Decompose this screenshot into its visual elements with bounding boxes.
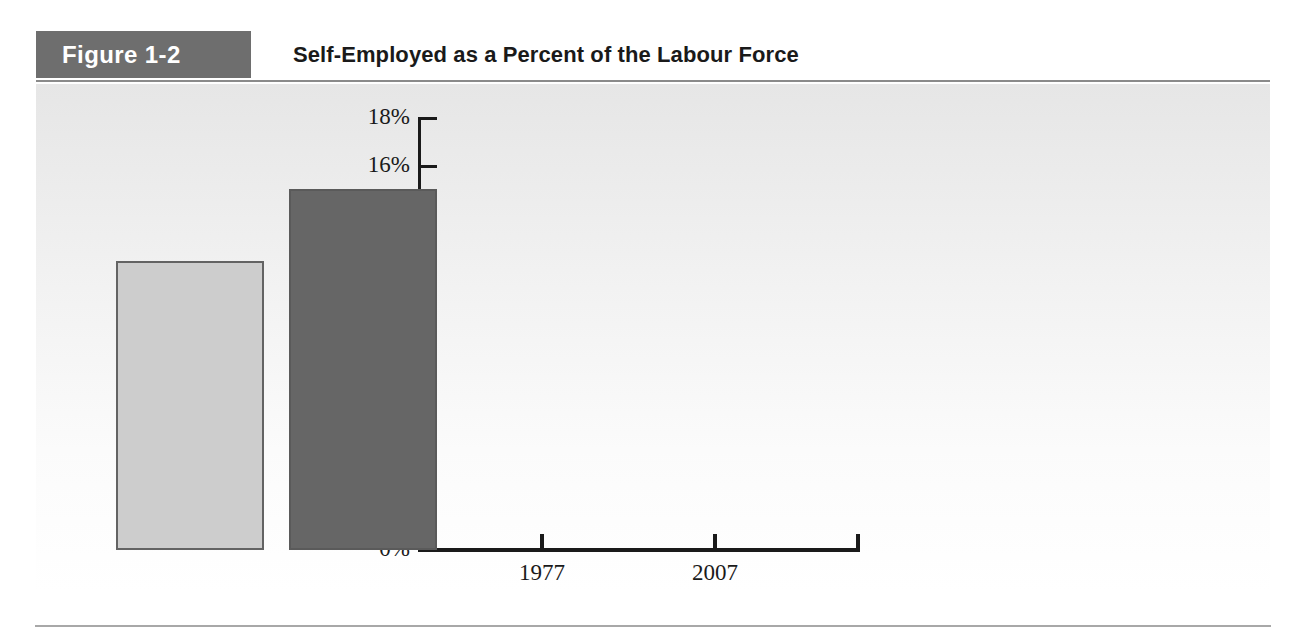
header-divider — [36, 80, 1270, 82]
figure-title: Self-Employed as a Percent of the Labour… — [293, 31, 799, 78]
y-tick-16 — [421, 165, 437, 168]
figure-root: Figure 1-2 Self-Employed as a Percent of… — [0, 0, 1299, 638]
x-tick-1977 — [540, 534, 544, 550]
bar-chart: 18% 16% 14% 12% 10% 8% 6% 4% 2% 0% 1977 … — [36, 84, 1270, 592]
y-tick-18 — [421, 117, 437, 120]
y-axis-label-18: 18% — [340, 104, 410, 130]
x-axis-line — [418, 548, 860, 552]
x-axis-label-1977: 1977 — [462, 560, 622, 586]
figure-header: Figure 1-2 Self-Employed as a Percent of… — [36, 31, 1270, 79]
x-axis-end-tick — [856, 534, 860, 552]
figure-bottom-divider — [35, 625, 1271, 627]
x-axis-label-2007: 2007 — [635, 560, 795, 586]
figure-number-label: Figure 1-2 — [36, 41, 181, 69]
y-axis-label-16: 16% — [340, 152, 410, 178]
figure-number-badge: Figure 1-2 — [36, 31, 251, 78]
bar-1977[interactable] — [116, 261, 264, 550]
chart-panel: 18% 16% 14% 12% 10% 8% 6% 4% 2% 0% 1977 … — [36, 84, 1270, 592]
x-tick-2007 — [713, 534, 717, 550]
bar-2007[interactable] — [289, 189, 437, 550]
